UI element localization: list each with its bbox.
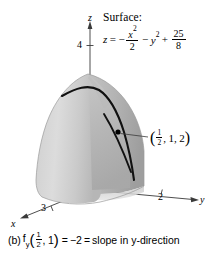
equation-term2-sign: −: [142, 34, 148, 45]
point-x-numerator: 1: [157, 129, 161, 137]
caption-arg-x-fraction: 1 2: [36, 231, 42, 248]
y-axis-label: y: [200, 195, 204, 205]
y-axis-tick-2: 2: [158, 192, 163, 202]
surface-equation-callout: Surface: z = − x2 2 − y2 + 25 8: [103, 12, 214, 52]
caption-equals-1: =: [62, 234, 68, 246]
caption-function-subscript: y: [26, 240, 30, 249]
point-marker: [115, 129, 120, 134]
equation-term1-num-var: x: [128, 29, 132, 40]
point-comma-1: ,: [163, 132, 166, 144]
equation-term3-numerator: 25: [172, 29, 186, 40]
caption-arg-x-denominator: 2: [36, 240, 40, 248]
equation-lhs: z: [103, 34, 107, 45]
equation-term3-fraction: 25 8: [172, 29, 186, 51]
equation-term3-sign: +: [162, 34, 168, 45]
caption-value: −2: [70, 234, 82, 246]
caption-function: fy: [23, 232, 30, 247]
x-axis-tick-3: 3: [41, 203, 46, 213]
point-close-paren: ): [185, 130, 190, 146]
point-x-fraction: 1 2: [156, 129, 162, 146]
caption-description: slope in y-direction: [92, 234, 180, 246]
equation-term2-exponent: 2: [156, 30, 160, 39]
equation-term3-denominator: 8: [174, 40, 183, 51]
point-coordinate-label: ( 1 2 , 1 , 2 ): [150, 129, 190, 146]
equation-term2: y2: [151, 33, 160, 46]
z-axis-tick-4: 4: [77, 40, 82, 50]
point-open-paren: (: [150, 130, 155, 146]
figure-root: Surface: z = − x2 2 − y2 + 25 8 ( 1 2: [0, 0, 214, 255]
paraboloid-surface: [36, 74, 144, 204]
surface-heading: Surface:: [103, 12, 214, 24]
caption-close-paren: ): [54, 232, 59, 247]
caption-open-paren: (: [30, 232, 35, 247]
surface-equation: z = − x2 2 − y2 + 25 8: [103, 28, 214, 52]
x-axis-label: x: [11, 219, 15, 229]
caption-arg-comma: ,: [43, 234, 46, 246]
equation-term2-var: y: [151, 34, 156, 46]
z-axis-label: z: [88, 13, 92, 23]
point-x-denominator: 2: [157, 138, 161, 146]
figure-caption: (b) fy ( 1 2 , 1 ) = −2 = slope in y-dir…: [8, 231, 180, 248]
equation-equals: =: [110, 34, 116, 45]
caption-arg-x-numerator: 1: [36, 231, 40, 239]
equation-term1-num-exponent: 2: [133, 24, 137, 33]
caption-part-label: (b): [8, 234, 21, 246]
equation-term1-sign: −: [119, 34, 125, 45]
equation-term1-fraction: x2 2: [126, 28, 138, 52]
equation-term1-denominator: 2: [128, 41, 137, 52]
point-comma-2: ,: [174, 132, 177, 144]
caption-equals-2: =: [84, 234, 90, 246]
equation-term1-numerator: x2: [126, 28, 138, 41]
